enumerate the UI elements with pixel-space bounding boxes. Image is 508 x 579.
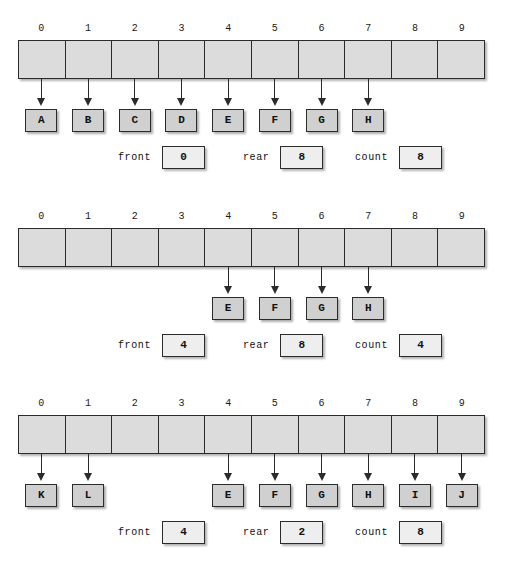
array-cell[interactable] — [438, 416, 484, 453]
arrow-shaft — [274, 267, 275, 288]
element-box[interactable]: E — [212, 109, 244, 132]
down-arrow-icon — [205, 267, 252, 295]
element-box[interactable]: H — [352, 484, 384, 507]
element-box[interactable]: K — [25, 484, 57, 507]
element-slot: F — [252, 482, 299, 508]
element-box[interactable]: F — [259, 297, 291, 320]
count-stat: count4 — [355, 332, 442, 358]
arrow-layer — [18, 79, 485, 107]
element-box[interactable]: H — [352, 297, 384, 320]
array-cell[interactable] — [66, 416, 113, 453]
down-arrow-icon — [18, 79, 65, 107]
element-slot: I — [392, 482, 439, 508]
array-cell[interactable] — [205, 416, 252, 453]
array-cell[interactable] — [345, 416, 392, 453]
array-cell[interactable] — [159, 41, 206, 78]
arrow-head — [318, 286, 326, 294]
array-cell[interactable] — [112, 41, 159, 78]
array-index-label: 9 — [438, 397, 485, 411]
array-cell[interactable] — [438, 229, 484, 266]
array-index-labels: 0123456789 — [18, 210, 485, 226]
count-label: count — [355, 152, 388, 163]
element-box[interactable]: D — [165, 109, 197, 132]
element-slot: G — [298, 107, 345, 133]
down-arrow-icon — [252, 454, 299, 482]
array-cell[interactable] — [159, 229, 206, 266]
rear-stat: rear2 — [243, 519, 323, 545]
element-slot: F — [252, 295, 299, 321]
rear-value-box[interactable]: 8 — [280, 146, 323, 169]
element-box[interactable]: A — [25, 109, 57, 132]
array-cell[interactable] — [112, 229, 159, 266]
array-index-labels: 0123456789 — [18, 22, 485, 38]
array-cell[interactable] — [159, 416, 206, 453]
array-cell[interactable] — [19, 416, 66, 453]
array-index-label: 5 — [252, 210, 299, 224]
element-box[interactable]: F — [259, 109, 291, 132]
front-stat: front4 — [118, 519, 205, 545]
arrow-head — [364, 98, 372, 106]
arrow-head — [364, 286, 372, 294]
down-arrow-icon — [298, 79, 345, 107]
array-cell[interactable] — [66, 41, 113, 78]
element-slot: G — [298, 482, 345, 508]
element-box[interactable]: B — [72, 109, 104, 132]
element-box[interactable]: G — [306, 297, 338, 320]
down-arrow-icon — [252, 79, 299, 107]
front-value-box[interactable]: 4 — [162, 334, 205, 357]
element-box[interactable]: G — [306, 484, 338, 507]
element-slot: G — [298, 295, 345, 321]
element-slot: L — [65, 482, 112, 508]
array-cell[interactable] — [205, 41, 252, 78]
array-cell[interactable] — [66, 229, 113, 266]
array-cell[interactable] — [299, 229, 346, 266]
count-value-box[interactable]: 8 — [399, 146, 442, 169]
element-box[interactable]: E — [212, 297, 244, 320]
array-cell[interactable] — [392, 416, 439, 453]
front-value-box[interactable]: 4 — [162, 521, 205, 544]
count-value-box[interactable]: 4 — [399, 334, 442, 357]
array-index-label: 8 — [392, 397, 439, 411]
element-box[interactable]: F — [259, 484, 291, 507]
element-box[interactable]: L — [72, 484, 104, 507]
rear-label: rear — [243, 527, 269, 538]
rear-label: rear — [243, 152, 269, 163]
down-arrow-icon — [205, 79, 252, 107]
element-box[interactable]: J — [446, 484, 478, 507]
element-slot: H — [345, 482, 392, 508]
rear-value-box[interactable]: 2 — [280, 521, 323, 544]
array-cell[interactable] — [392, 41, 439, 78]
array-index-label: 8 — [392, 210, 439, 224]
element-slot: F — [252, 107, 299, 133]
array-cell[interactable] — [299, 41, 346, 78]
array-cell[interactable] — [205, 229, 252, 266]
count-value-box[interactable]: 8 — [399, 521, 442, 544]
front-value-box[interactable]: 0 — [162, 146, 205, 169]
array-cell[interactable] — [299, 416, 346, 453]
array-cell[interactable] — [252, 229, 299, 266]
element-box[interactable]: G — [306, 109, 338, 132]
array-cell[interactable] — [345, 41, 392, 78]
arrow-shaft — [321, 267, 322, 288]
rear-stat: rear8 — [243, 332, 323, 358]
element-box[interactable]: I — [399, 484, 431, 507]
array-cell[interactable] — [19, 229, 66, 266]
element-box[interactable]: C — [119, 109, 151, 132]
element-box[interactable]: H — [352, 109, 384, 132]
arrow-head — [84, 98, 92, 106]
rear-value-box[interactable]: 8 — [280, 334, 323, 357]
array-cell[interactable] — [345, 229, 392, 266]
array-cell[interactable] — [252, 41, 299, 78]
element-boxes: KLEFGHIJ — [18, 482, 485, 508]
count-stat: count8 — [355, 144, 442, 170]
array-cell[interactable] — [19, 41, 66, 78]
array-cell[interactable] — [252, 416, 299, 453]
array-cell[interactable] — [392, 229, 439, 266]
count-label: count — [355, 527, 388, 538]
array-cell[interactable] — [112, 416, 159, 453]
element-box[interactable]: E — [212, 484, 244, 507]
arrow-head — [224, 286, 232, 294]
arrow-head — [224, 473, 232, 481]
array-cell[interactable] — [438, 41, 484, 78]
down-arrow-icon — [65, 454, 112, 482]
